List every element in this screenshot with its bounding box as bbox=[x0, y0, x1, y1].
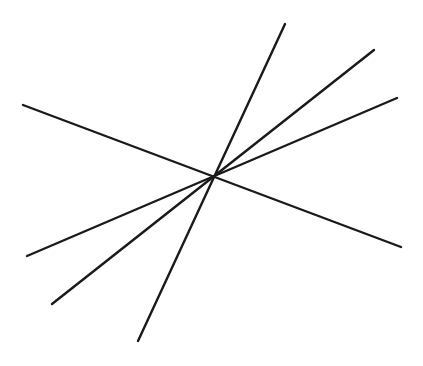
diagram-canvas bbox=[0, 0, 423, 366]
concurrent-lines-figure bbox=[0, 0, 423, 366]
line-4 bbox=[27, 98, 397, 256]
line-2 bbox=[138, 24, 285, 341]
